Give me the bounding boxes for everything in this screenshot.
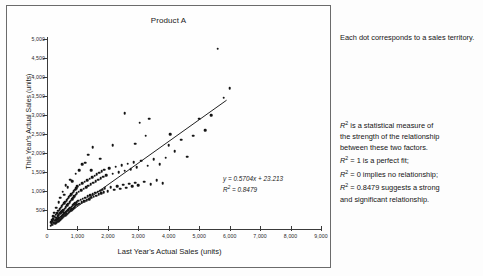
r-squared-explanation-note: R2 is a statistical measure ofthe streng… [340,118,440,205]
r-squared-note-line: the strength of the relationship [340,131,440,142]
squared-exponent: 2 [345,155,348,161]
side-notes-panel: Each dot corresponds to a sales territor… [340,5,480,268]
scatter-plot-figure: Product A 5001,0001,5002,0002,5003,0003,… [0,0,483,276]
squared-exponent: 2 [345,120,348,126]
trendline [7,6,332,269]
r-squared-bullet-line: R2 = 0.8479 suggests a strong [340,180,440,193]
y-axis-title: This Year's Actual Sales (units) [25,47,32,197]
regression-equation-annotation: y = 0.5704x + 23.213 R2 = 0.8479 [223,174,283,194]
regression-equation-line: y = 0.5704x + 23.213 [223,174,283,183]
r-squared-bullet-line: R2 = 1 is a perfect fit; [340,153,440,166]
r-squared-bullet-line: R2 = 0 implies no relationship; [340,167,440,180]
plot-area: 5001,0001,5002,0002,5003,0003,5004,0004,… [7,6,332,269]
squared-exponent: 2 [345,182,348,188]
r-squared-text: R2 = 0.8479 [223,186,257,193]
r-squared-note-line: R2 is a statistical measure of [340,118,440,131]
r-squared-note-line: between these two factors. [340,142,440,153]
squared-exponent: 2 [228,185,231,190]
squared-exponent: 2 [345,169,348,175]
r-squared-bullet-line: and significant relationship. [340,194,440,205]
chart-panel: Product A 5001,0001,5002,0002,5003,0003,… [6,5,331,268]
dot-explanation-note: Each dot corresponds to a sales territor… [340,32,474,43]
regression-equation-text: y = 0.5704x + 23.213 [223,175,283,182]
r-squared-line: R2 = 0.8479 [223,183,283,194]
x-axis-title: Last Year's Actual Sales (units) [7,247,332,256]
